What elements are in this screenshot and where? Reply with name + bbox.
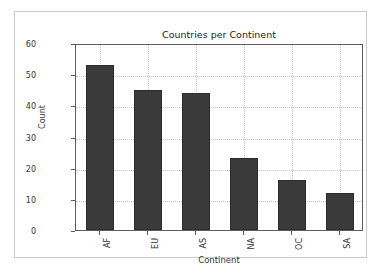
y-axis-tick-label: 50 xyxy=(10,71,36,80)
gridline-horizontal xyxy=(76,139,362,140)
y-axis-tick xyxy=(71,231,75,232)
bar xyxy=(326,193,354,230)
figure-frame: Countries per Continent Count Continent … xyxy=(14,11,367,258)
chart-screenshot: Countries per Continent Count Continent … xyxy=(0,0,383,273)
x-axis-tick-label: SA xyxy=(343,238,352,249)
y-axis-label: Count xyxy=(38,105,47,129)
bar xyxy=(278,180,306,230)
x-axis-tick-label: AS xyxy=(199,238,208,249)
bar xyxy=(230,158,258,230)
gridline-horizontal xyxy=(76,107,362,108)
bar xyxy=(182,93,210,230)
y-axis-tick-label: 20 xyxy=(10,165,36,174)
x-axis-tick xyxy=(147,231,148,235)
y-axis-tick-label: 60 xyxy=(10,40,36,49)
bar xyxy=(86,65,114,230)
y-axis-tick-label: 0 xyxy=(10,227,36,236)
chart-title: Countries per Continent xyxy=(75,29,363,40)
x-axis-tick xyxy=(195,231,196,235)
bar xyxy=(134,90,162,230)
x-axis-label: Continent xyxy=(75,255,363,265)
y-axis-tick-label: 10 xyxy=(10,196,36,205)
x-axis-tick xyxy=(291,231,292,235)
y-axis-tick-label: 30 xyxy=(10,134,36,143)
x-axis-tick xyxy=(243,231,244,235)
x-axis-tick-label: EU xyxy=(151,238,160,249)
y-axis-tick-label: 40 xyxy=(10,102,36,111)
gridline-horizontal xyxy=(76,201,362,202)
x-axis-tick-label: OC xyxy=(295,238,304,250)
x-axis-tick-label: AF xyxy=(103,238,112,248)
x-axis-tick xyxy=(339,231,340,235)
gridline-horizontal xyxy=(76,76,362,77)
x-axis-tick-label: NA xyxy=(247,238,256,249)
gridline-horizontal xyxy=(76,170,362,171)
x-axis-tick xyxy=(99,231,100,235)
plot-area xyxy=(75,44,363,231)
